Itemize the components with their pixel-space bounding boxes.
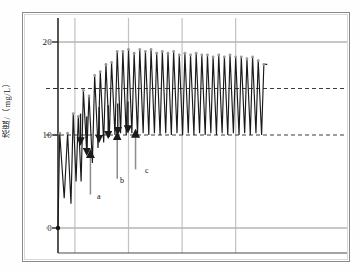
figure-container: 浓度/（mg/L） 20 10 0 a b c: [0, 0, 361, 272]
chart-plot-area: [0, 0, 361, 272]
